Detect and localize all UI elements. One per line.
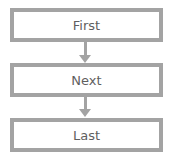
- node-label: First: [73, 18, 100, 33]
- node-last: Last: [10, 118, 163, 152]
- node-next: Next: [10, 63, 163, 97]
- arrow-shaft: [84, 42, 87, 56]
- node-label: Last: [73, 128, 100, 143]
- node-first: First: [10, 8, 163, 42]
- arrow-down-icon: [79, 109, 91, 117]
- arrow-down-icon: [79, 55, 91, 63]
- node-label: Next: [71, 73, 101, 88]
